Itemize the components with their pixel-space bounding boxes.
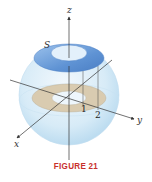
tick-label-1: 1 — [81, 104, 87, 114]
x-axis-label: x — [14, 139, 19, 149]
z-axis-label: z — [66, 5, 72, 15]
figure-caption: FIGURE 21 — [8, 161, 145, 171]
sphere-diagram: z S 1 2 y x — [0, 0, 152, 182]
tick-label-2: 2 — [95, 110, 101, 120]
surface-label-s: S — [44, 40, 50, 50]
y-axis-label: y — [136, 115, 143, 125]
